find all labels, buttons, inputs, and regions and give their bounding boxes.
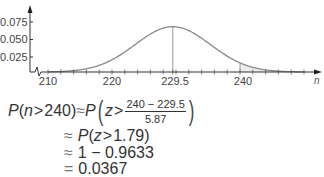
variable-z: z (94, 127, 102, 145)
x-tick-label: 240 (234, 76, 252, 87)
x-tick-label: 220 (103, 76, 121, 87)
big-open-paren: ( (98, 97, 104, 125)
derivation-line-4: = 0.0367 (64, 160, 127, 177)
x-tick-label: 229.5 (161, 76, 189, 87)
approx-sign: ≈ (64, 127, 73, 145)
probability-result: 0.0367 (78, 160, 127, 177)
y-axis-arrow-icon (28, 5, 33, 13)
fraction-denominator: 5.87 (145, 112, 166, 125)
probability-symbol: P (78, 127, 89, 145)
big-close-paren: ) (189, 97, 195, 125)
greater-than: > (34, 102, 43, 120)
probability-derivation: P ( n > 240 ) ≈ P ( z > 240 − 229.5 5.87… (0, 90, 324, 177)
probability-symbol: P (85, 102, 96, 120)
x-axis-variable-label: n (314, 76, 320, 86)
x-axis-arrow-icon (314, 70, 322, 75)
probability-symbol: P (8, 102, 19, 120)
fraction-numerator: 240 − 229.5 (125, 98, 185, 112)
greater-than: > (114, 102, 123, 120)
derivation-line-2: ≈ P ( z > 1.79) (64, 127, 150, 145)
variable-z: z (105, 102, 113, 120)
derivation-line-1: P ( n > 240 ) ≈ P ( z > 240 − 229.5 5.87… (8, 96, 196, 126)
x-ticks (48, 70, 304, 75)
equals-sign: = (64, 160, 73, 177)
y-tick-label: 0.025 (0, 52, 26, 63)
approx-sign: ≈ (76, 102, 85, 120)
greater-than: > (103, 127, 112, 145)
normal-curve (48, 27, 304, 72)
variable-n: n (24, 102, 33, 120)
z-score-fraction: 240 − 229.5 5.87 (125, 98, 185, 125)
threshold-value: 240 (44, 102, 71, 120)
y-tick-label: 0.075 (0, 17, 26, 28)
normal-distribution-chart: 0.075 0.050 0.025 210 220 229.5 240 n (0, 0, 324, 90)
z-value: 1.79) (113, 127, 149, 145)
y-tick-label: 0.050 (0, 34, 26, 45)
x-tick-label: 210 (39, 76, 57, 87)
